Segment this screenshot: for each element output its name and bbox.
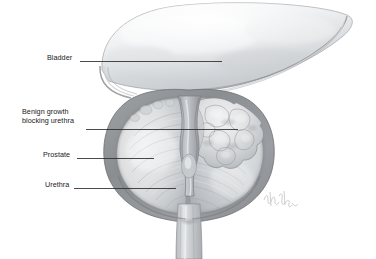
label-urethra: Urethra xyxy=(45,180,69,189)
label-bladder: Bladder xyxy=(47,53,72,62)
label-prostate: Prostate xyxy=(43,150,70,159)
label-benign-growth: Benign growth blocking urethra xyxy=(22,107,74,125)
prostate-gland xyxy=(104,89,275,259)
label-benign-growth-line2: blocking urethra xyxy=(22,116,74,125)
label-benign-growth-line1: Benign growth xyxy=(22,107,74,116)
label-bladder-text: Bladder xyxy=(47,53,72,62)
label-urethra-text: Urethra xyxy=(45,180,69,189)
illustration-canvas: Bladder Benign growth blocking urethra P… xyxy=(0,0,376,259)
label-prostate-text: Prostate xyxy=(43,150,70,159)
artist-signature xyxy=(264,191,298,207)
prostate-anatomy-illustration xyxy=(0,0,376,259)
